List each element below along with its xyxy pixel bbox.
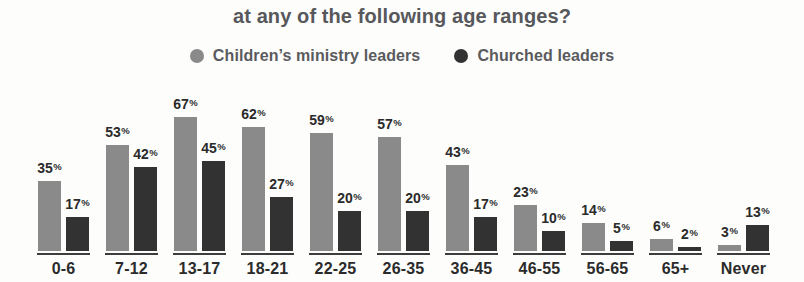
bar-value-label: 62% — [241, 106, 266, 124]
bar-value-label: 13% — [745, 204, 770, 222]
bar — [378, 137, 401, 251]
category-label: 26-35 — [383, 259, 425, 278]
percent-sign: % — [53, 161, 61, 172]
percent-sign: % — [393, 117, 401, 128]
bar-column: 23% — [514, 184, 537, 251]
percent-sign: % — [529, 185, 537, 196]
percent-sign: % — [729, 225, 737, 236]
baseline-rule — [513, 253, 566, 255]
bar-value-label: 35% — [37, 160, 62, 178]
bar-column: 53% — [106, 124, 129, 251]
bar-column: 3% — [718, 224, 741, 251]
bar — [338, 211, 361, 251]
bar-column: 20% — [406, 190, 429, 251]
bar-column: 17% — [474, 196, 497, 251]
bar-value-label: 43% — [445, 144, 470, 162]
percent-sign: % — [353, 191, 361, 202]
percent-sign: % — [285, 177, 293, 188]
bar — [406, 211, 429, 251]
category-label: 0-6 — [52, 259, 76, 278]
bar-column: 10% — [542, 210, 565, 251]
bar — [718, 245, 741, 251]
baseline-rule — [173, 253, 226, 255]
bar-value-label: 45% — [201, 140, 226, 158]
bar-value-label: 67% — [173, 96, 198, 114]
percent-sign: % — [621, 221, 629, 232]
bar-column: 59% — [310, 112, 333, 251]
percent-sign: % — [121, 125, 129, 136]
percent-sign: % — [81, 197, 89, 208]
percent-sign: % — [761, 205, 769, 216]
bar-column: 27% — [270, 176, 293, 251]
bar-group: 35%17%0-6 — [37, 98, 90, 278]
bar-column: 45% — [202, 140, 225, 251]
legend-label: Churched leaders — [477, 47, 614, 65]
baseline-rule — [309, 253, 362, 255]
bar-pair: 14%5% — [582, 98, 633, 251]
bar — [174, 117, 197, 251]
category-label: 22-25 — [315, 259, 357, 278]
baseline-rule — [105, 253, 158, 255]
bar-group: 53%42%7-12 — [105, 98, 158, 278]
bar-pair: 67%45% — [174, 98, 225, 251]
bar-group: 23%10%46-55 — [513, 98, 566, 278]
percent-sign: % — [661, 219, 669, 230]
bar-column: 67% — [174, 96, 197, 251]
percent-sign: % — [257, 107, 265, 118]
bar-value-label: 23% — [513, 184, 538, 202]
bar-column: 42% — [134, 146, 157, 251]
bar-group: 43%17%36-45 — [445, 98, 498, 278]
legend-item-children-ministry-leaders: Children’s ministry leaders — [190, 47, 421, 65]
percent-sign: % — [557, 211, 565, 222]
percent-sign: % — [217, 141, 225, 152]
bar-chart: 35%17%0-653%42%7-1267%45%13-1762%27%18-2… — [37, 98, 770, 278]
bar-column: 6% — [650, 218, 673, 251]
bar-pair: 57%20% — [378, 98, 429, 251]
percent-sign: % — [189, 97, 197, 108]
category-label: Never — [721, 259, 766, 278]
bar-value-label: 17% — [473, 196, 498, 214]
bar — [38, 181, 61, 251]
bar — [678, 247, 701, 251]
bar — [202, 161, 225, 251]
bar-pair: 35%17% — [38, 98, 89, 251]
bar-value-label: 42% — [133, 146, 158, 164]
bar-group: 6%2%65+ — [649, 98, 702, 278]
bar-value-label: 5% — [613, 220, 630, 238]
bar-column: 43% — [446, 144, 469, 251]
bar-value-label: 59% — [309, 112, 334, 130]
percent-sign: % — [421, 191, 429, 202]
bar-column: 62% — [242, 106, 265, 251]
chart-legend: Children’s ministry leaders Churched lea… — [0, 45, 804, 66]
bar — [446, 165, 469, 251]
baseline-rule — [37, 253, 90, 255]
bar-value-label: 2% — [681, 226, 698, 244]
bar-group: 62%27%18-21 — [241, 98, 294, 278]
bar-value-label: 3% — [721, 224, 738, 242]
bar-pair: 23%10% — [514, 98, 565, 251]
bar-value-label: 10% — [541, 210, 566, 228]
bar-group: 57%20%26-35 — [377, 98, 430, 278]
chart-title: at any of the following age ranges? — [0, 4, 804, 28]
baseline-rule — [581, 253, 634, 255]
bar-value-label: 17% — [65, 196, 90, 214]
bar-column: 5% — [610, 220, 633, 251]
bar-value-label: 57% — [377, 116, 402, 134]
bar — [746, 225, 769, 251]
bar-column: 13% — [746, 204, 769, 251]
category-label: 13-17 — [179, 259, 221, 278]
bar — [270, 197, 293, 251]
bar-value-label: 6% — [653, 218, 670, 236]
percent-sign: % — [461, 145, 469, 156]
bar — [514, 205, 537, 251]
bar — [310, 133, 333, 251]
percent-sign: % — [689, 227, 697, 238]
legend-dot-icon — [190, 49, 204, 63]
category-label: 36-45 — [451, 259, 493, 278]
bar — [242, 127, 265, 251]
percent-sign: % — [149, 147, 157, 158]
bar-column: 35% — [38, 160, 61, 251]
bar — [542, 231, 565, 251]
bar-column: 57% — [378, 116, 401, 251]
bar-pair: 59%20% — [310, 98, 361, 251]
